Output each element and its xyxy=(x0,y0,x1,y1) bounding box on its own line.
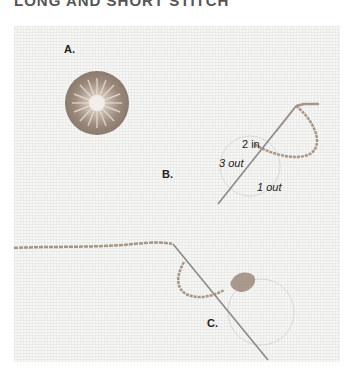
needle-icon xyxy=(173,244,268,360)
step-a-label: A. xyxy=(64,43,75,55)
annotation-3-out: 3 out xyxy=(219,157,243,169)
stitch-illustration xyxy=(14,26,340,362)
step-b-label: B. xyxy=(162,168,173,180)
step-c-illustration xyxy=(14,243,294,361)
finished-circle-icon xyxy=(65,71,129,135)
annotation-1-out: 1 out xyxy=(257,181,281,193)
annotation-2-in: 2 in xyxy=(242,138,260,150)
step-c-label: C. xyxy=(207,317,218,329)
page-heading: LONG AND SHORT STITCH xyxy=(14,0,229,9)
illustration-canvas: A. B. 2 in 3 out 1 out C. xyxy=(14,26,340,362)
